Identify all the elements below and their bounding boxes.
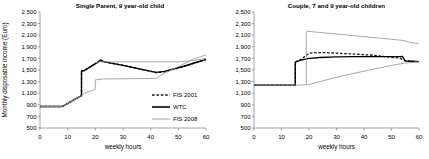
series-line	[254, 56, 419, 85]
x-tick-label: 0	[252, 134, 256, 140]
x-tick-label: 20	[92, 134, 99, 140]
chart-canvas-left: 5007009001,1001,3001,5001,7001,9002,1002…	[0, 0, 214, 159]
x-tick-label: 40	[147, 134, 154, 140]
y-tick-label: 900	[240, 102, 251, 108]
x-tick-label: 30	[120, 134, 127, 140]
x-tick-label: 50	[388, 134, 395, 140]
series-line	[306, 31, 419, 84]
y-tick-label: 1,100	[21, 90, 37, 96]
y-tick-label: 700	[26, 114, 37, 120]
x-tick-label: 50	[175, 134, 182, 140]
series-line	[95, 58, 206, 62]
y-tick-label: 500	[26, 125, 37, 131]
y-tick-label: 1,500	[235, 67, 251, 73]
y-tick-label: 1,100	[235, 90, 251, 96]
y-tick-label: 1,300	[21, 79, 37, 85]
chart-panel-single-parent: Single Parent, 9 year-old child 50070090…	[0, 0, 214, 159]
y-tick-label: 700	[240, 114, 251, 120]
y-tick-label: 2,100	[235, 32, 251, 38]
x-tick-label: 10	[64, 134, 71, 140]
x-tick-label: 60	[416, 134, 423, 140]
legend-label: FIS 2008	[173, 116, 198, 122]
series-line	[40, 59, 206, 106]
x-tick-label: 40	[361, 134, 368, 140]
y-tick-label: 2,100	[21, 32, 37, 38]
x-tick-label: 20	[306, 134, 313, 140]
x-tick-label: 60	[203, 134, 210, 140]
y-tick-label: 500	[240, 125, 251, 131]
y-tick-label: 2,300	[235, 21, 251, 27]
x-axis-title: weekly hours	[104, 143, 142, 151]
legend-label: WTC	[173, 104, 187, 110]
x-axis-title: weekly hours	[317, 143, 355, 151]
y-tick-label: 1,900	[235, 44, 251, 50]
chart-panel-couple: Couple, 7 and 9 year-old children 500700…	[214, 0, 429, 159]
y-tick-label: 1,700	[21, 56, 37, 62]
legend-label: FIS 2001	[173, 92, 198, 98]
chart-canvas-right: 5007009001,1001,3001,5001,7001,9002,1002…	[214, 0, 429, 159]
y-tick-label: 1,500	[21, 67, 37, 73]
x-tick-label: 0	[38, 134, 42, 140]
x-tick-label: 30	[333, 134, 340, 140]
y-tick-label: 1,700	[235, 56, 251, 62]
series-line	[254, 62, 419, 85]
y-axis-title: Monthly disposable income (Euro)	[1, 22, 9, 117]
y-tick-label: 1,900	[21, 44, 37, 50]
y-tick-label: 2,300	[21, 21, 37, 27]
y-tick-label: 1,300	[235, 79, 251, 85]
figure-two-panel-line-charts: Single Parent, 9 year-old child 50070090…	[0, 0, 429, 159]
series-line	[40, 55, 206, 107]
y-tick-label: 2,500	[235, 9, 251, 15]
x-tick-label: 10	[278, 134, 285, 140]
y-tick-label: 2,500	[21, 9, 37, 15]
y-tick-label: 900	[26, 102, 37, 108]
